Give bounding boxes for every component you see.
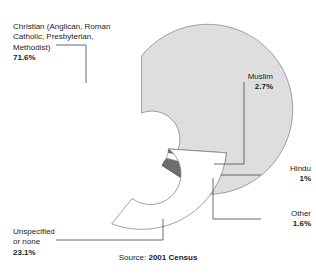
callout-label-muslim: Muslim 2.7% — [193, 61, 273, 93]
callout-pct-other: 1.6% — [293, 219, 311, 228]
callout-label-christian: Christian (Anglican, Roman Catholic, Pre… — [13, 11, 143, 64]
callout-pct-christian: 71.6% — [13, 53, 36, 62]
callout-pct-muslim: 2.7% — [255, 82, 273, 91]
callout-text-other: Other — [291, 209, 311, 218]
chart-figure: Christian (Anglican, Roman Catholic, Pre… — [0, 0, 316, 274]
callout-label-unspecified: Unspecified or none 23.1% — [13, 216, 103, 258]
callout-text-christian: Christian (Anglican, Roman Catholic, Pre… — [13, 22, 110, 52]
callout-label-hindu: Hindu 1% — [241, 153, 311, 185]
callout-pct-hindu: 1% — [299, 174, 311, 183]
source-note: Source: 2001 Census — [0, 253, 316, 262]
callout-text-hindu: Hindu — [290, 164, 311, 173]
callout-text-unspecified: Unspecified or none — [13, 227, 55, 247]
source-prefix: Source: — [119, 253, 149, 262]
callout-label-other: Other 1.6% — [241, 198, 311, 230]
callout-text-muslim: Muslim — [248, 72, 273, 81]
source-value: 2001 Census — [148, 253, 197, 262]
